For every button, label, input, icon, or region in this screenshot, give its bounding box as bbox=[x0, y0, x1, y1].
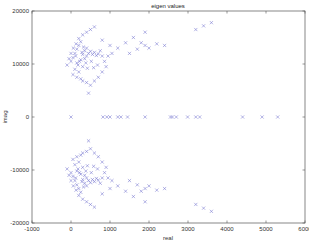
chart-title: eigen values bbox=[151, 3, 185, 9]
y-tick-label: -20000 bbox=[10, 220, 29, 226]
y-axis-label: imag bbox=[2, 110, 8, 123]
x-tick-label: 2000 bbox=[142, 226, 156, 232]
y-tick-label: -10000 bbox=[10, 167, 29, 173]
y-tick-label: 10000 bbox=[12, 61, 29, 67]
eigenvalue-scatter-chart: eigen values -10000100020003000400050006… bbox=[0, 0, 309, 241]
x-tick-label: 6000 bbox=[298, 226, 309, 232]
x-axis-label: real bbox=[163, 235, 173, 241]
x-tick-label: 1000 bbox=[103, 226, 117, 232]
x-tick-label: 5000 bbox=[259, 226, 273, 232]
x-tick-label: 3000 bbox=[181, 226, 195, 232]
y-tick-label: 20000 bbox=[12, 8, 29, 14]
x-tick-label: 4000 bbox=[220, 226, 234, 232]
x-tick-label: -1000 bbox=[24, 226, 40, 232]
chart-background bbox=[0, 0, 309, 241]
